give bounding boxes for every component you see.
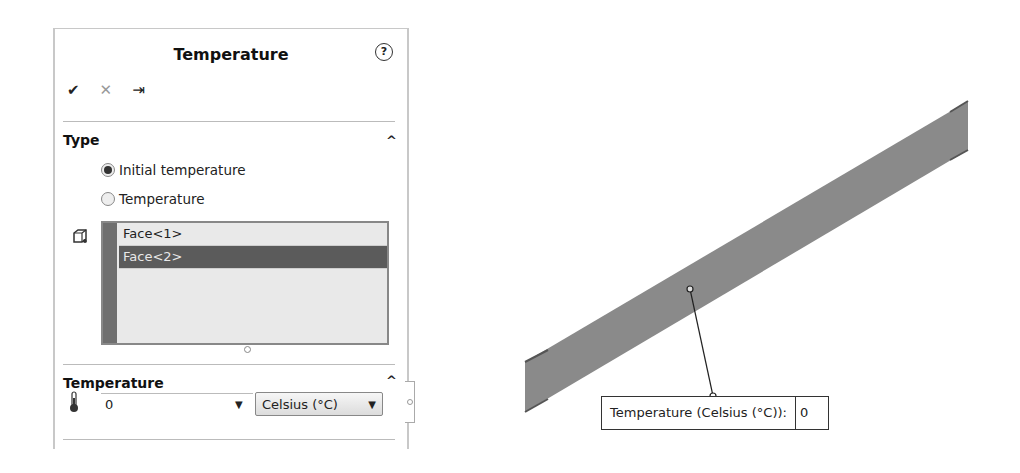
temperature-callout[interactable]: Temperature (Celsius (°C)): 0 xyxy=(601,396,829,430)
model-face-band[interactable] xyxy=(525,101,968,412)
callout-label: Temperature (Celsius (°C)): xyxy=(602,397,796,429)
callout-value[interactable]: 0 xyxy=(796,397,828,429)
graphics-viewport[interactable] xyxy=(0,0,1020,473)
callout-anchor-point[interactable] xyxy=(687,286,693,292)
